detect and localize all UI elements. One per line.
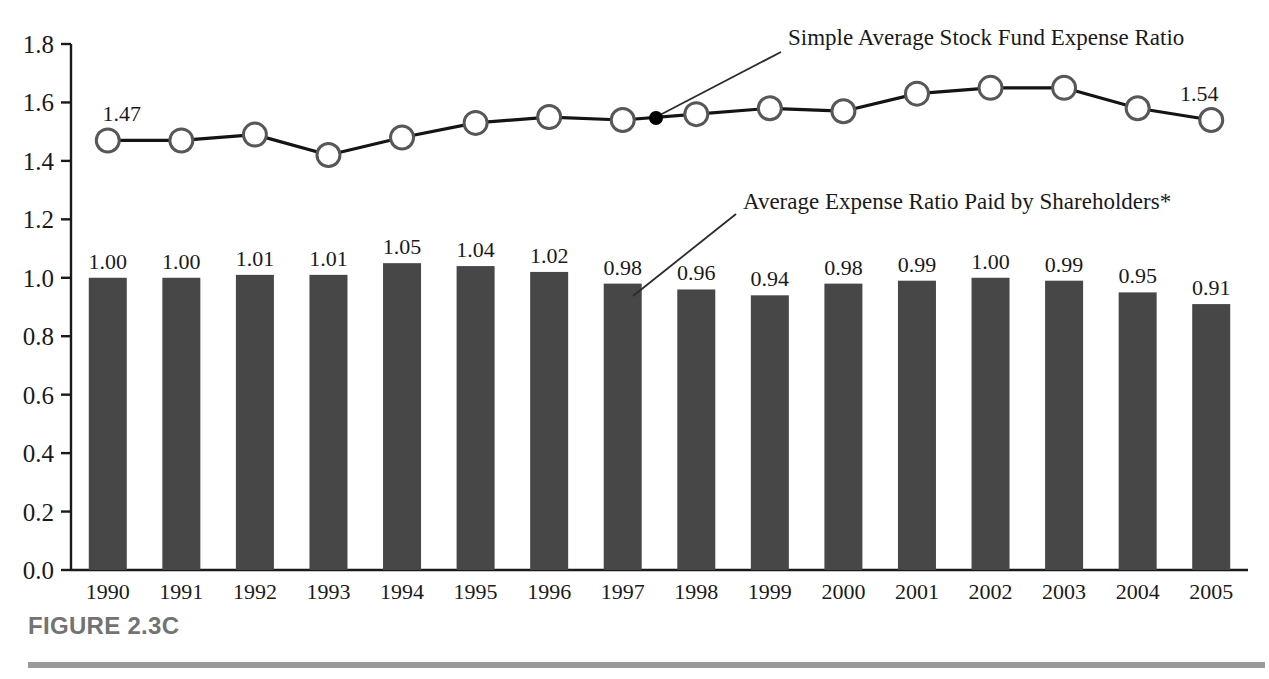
y-axis-tick-label: 0.2 <box>23 499 54 526</box>
bar <box>162 278 200 570</box>
x-axis-tick-label: 1991 <box>159 579 203 604</box>
x-axis-tick-label: 1993 <box>306 579 350 604</box>
y-axis-tick-label: 1.8 <box>23 31 54 58</box>
bar-value-label: 0.99 <box>898 252 937 277</box>
line-marker <box>832 100 855 123</box>
bar <box>89 278 127 570</box>
bar-value-label: 0.91 <box>1192 275 1231 300</box>
x-axis-tick-label: 1999 <box>748 579 792 604</box>
y-axis-tick-label: 1.0 <box>23 265 54 292</box>
bar <box>530 272 568 570</box>
bar <box>972 278 1010 570</box>
line-marker <box>170 129 193 152</box>
y-axis-tick-label: 1.2 <box>23 206 54 233</box>
x-axis-tick-label: 2004 <box>1116 579 1160 604</box>
bar-value-label: 0.96 <box>677 260 716 285</box>
y-axis-tick-label: 1.6 <box>23 89 54 116</box>
line-marker <box>1053 76 1076 99</box>
bar-value-label: 0.94 <box>751 266 790 291</box>
bar <box>383 263 421 570</box>
line-series-annotation-label: Simple Average Stock Fund Expense Ratio <box>788 25 1184 50</box>
line-marker <box>979 76 1002 99</box>
figure-caption: FIGURE 2.3C <box>28 612 179 640</box>
bar <box>1045 281 1083 570</box>
y-axis-tick-label: 0.8 <box>23 323 54 350</box>
x-axis-tick-label: 1995 <box>454 579 498 604</box>
x-axis-tick-label: 1992 <box>233 579 277 604</box>
bar-value-label: 1.02 <box>530 243 569 268</box>
figure-container: 1.81.61.41.21.00.80.60.40.20.0 199019911… <box>0 0 1269 679</box>
expense-ratio-chart: 1.81.61.41.21.00.80.60.40.20.0 199019911… <box>0 0 1269 679</box>
line-marker <box>391 126 414 149</box>
line-series-annotation-anchor-dot <box>649 111 663 125</box>
y-axis-tick-label: 0.4 <box>23 440 55 467</box>
bar <box>236 275 274 570</box>
bar-value-label: 1.04 <box>456 237 495 262</box>
bar-value-label: 0.95 <box>1118 263 1157 288</box>
bar-value-label: 1.00 <box>971 249 1010 274</box>
x-axis-tick-label: 1996 <box>527 579 571 604</box>
bar-value-label: 1.00 <box>89 249 128 274</box>
bar <box>457 266 495 570</box>
bar <box>898 281 936 570</box>
x-axis-tick-label: 1998 <box>674 579 718 604</box>
figure-divider-rule <box>28 662 1265 668</box>
bar <box>751 295 789 570</box>
bar-series <box>89 263 1230 570</box>
line-marker <box>538 106 561 129</box>
bar-value-label: 1.01 <box>236 246 275 271</box>
line-marker <box>464 111 487 134</box>
bar-series-annotation-label: Average Expense Ratio Paid by Shareholde… <box>743 189 1171 214</box>
bar-value-label: 1.05 <box>383 234 422 259</box>
x-axis-tick-label: 1994 <box>380 579 424 604</box>
line-marker <box>758 97 781 120</box>
line-marker <box>1200 108 1223 131</box>
y-axis: 1.81.61.41.21.00.80.60.40.20.0 <box>23 31 71 584</box>
x-axis-tick-label: 2001 <box>895 579 939 604</box>
x-axis-tick-label: 2000 <box>821 579 865 604</box>
bar-value-label: 0.98 <box>603 255 642 280</box>
x-axis: 1990199119921993199419951996199719981999… <box>71 570 1248 604</box>
x-axis-tick-label: 1997 <box>601 579 645 604</box>
bar <box>604 284 642 570</box>
x-axis-tick-label: 2005 <box>1189 579 1233 604</box>
bar <box>824 284 862 570</box>
bar-value-label: 1.01 <box>309 246 348 271</box>
line-value-label: 1.47 <box>103 101 142 126</box>
line-marker <box>317 144 340 167</box>
line-marker <box>1126 97 1149 120</box>
bar <box>677 289 715 570</box>
x-axis-tick-label: 1990 <box>86 579 130 604</box>
y-axis-tick-label: 1.4 <box>23 148 55 175</box>
bar <box>1192 304 1230 570</box>
line-marker <box>685 103 708 126</box>
line-marker <box>243 123 266 146</box>
bar <box>1119 292 1157 570</box>
bar-value-label: 0.98 <box>824 255 863 280</box>
line-marker <box>905 82 928 105</box>
line-value-label: 1.54 <box>1180 81 1219 106</box>
line-marker <box>96 129 119 152</box>
bar-value-label: 1.00 <box>162 249 201 274</box>
x-axis-tick-label: 2003 <box>1042 579 1086 604</box>
bar <box>309 275 347 570</box>
y-axis-tick-label: 0.6 <box>23 382 54 409</box>
bar-value-label: 0.99 <box>1045 252 1084 277</box>
x-axis-tick-label: 2002 <box>969 579 1013 604</box>
y-axis-tick-label: 0.0 <box>23 557 54 584</box>
line-marker <box>611 108 634 131</box>
